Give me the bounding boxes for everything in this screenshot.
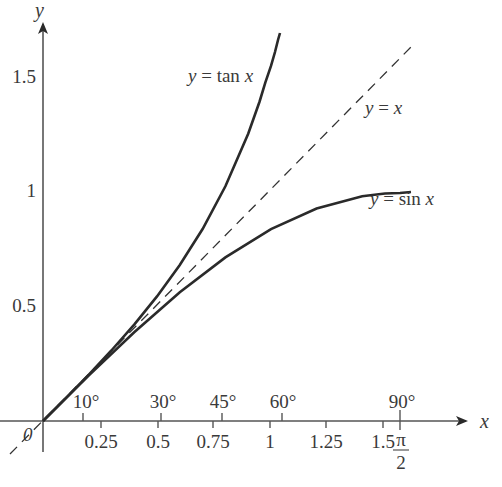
x-axis-label: x [479,410,489,432]
x-tick-0.5: 0.5 [146,431,170,452]
x-tick-1.5: 1.5 [371,431,395,452]
degree-label-30: 30° [150,391,177,412]
x-tick-pi-over-2: π 2 [393,429,409,473]
y-axis-label: y [33,0,44,22]
degree-label-45: 45° [210,391,237,412]
degree-ticks [83,410,400,430]
degree-label-10: 10° [73,391,100,412]
y-tick-0.5: 0.5 [12,295,36,316]
x-tick-1.25: 1.25 [309,431,342,452]
sin-curve [43,192,411,421]
trig-comparison-chart: x y 0 0.25 0.5 0.75 1 1.25 1.5 π 2 10° 3… [0,0,502,487]
svg-text:2: 2 [396,452,406,473]
identity-label: y = x [363,97,403,118]
y-tick-1.5: 1.5 [12,66,36,87]
y-tick-1: 1 [27,180,37,201]
sin-label: y = sin x [368,188,435,209]
x-tick-1: 1 [265,431,275,452]
degree-label-60: 60° [270,391,297,412]
x-ticks [101,421,383,428]
degree-label-90: 90° [389,391,416,412]
x-tick-0.25: 0.25 [84,431,117,452]
origin-label: 0 [23,424,33,445]
tan-curve [43,33,280,421]
x-tick-0.75: 0.75 [196,431,229,452]
svg-text:π: π [396,429,406,450]
tan-label: y = tan x [186,65,254,86]
